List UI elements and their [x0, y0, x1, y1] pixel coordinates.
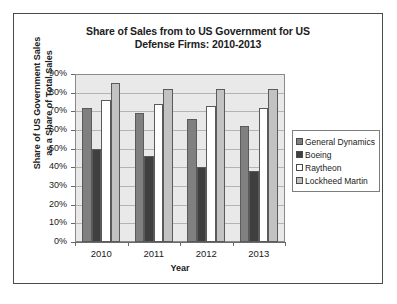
x-tick-mark	[180, 242, 181, 246]
legend-swatch-icon	[296, 164, 303, 171]
bar-2010-raytheon	[101, 100, 111, 242]
bar-2011-general-dynamics	[135, 113, 145, 242]
y-tick-label: 90%	[33, 69, 67, 78]
bar-2012-raytheon	[206, 106, 216, 242]
bar-2013-boeing	[249, 171, 259, 242]
y-tick-label: 50%	[33, 144, 67, 153]
bar-2011-lockheed-martin	[163, 89, 173, 242]
y-tick-mark	[71, 93, 75, 94]
legend-label: General Dynamics	[305, 137, 375, 147]
y-tick-label: 30%	[33, 181, 67, 190]
x-tick-mark	[285, 242, 286, 246]
x-tick-label-2013: 2013	[233, 248, 286, 259]
bars-layer	[75, 74, 285, 242]
y-tick-mark	[71, 149, 75, 150]
chart-title-line-1: Share of Sales from to US Government for…	[14, 25, 382, 38]
x-tick-mark	[128, 242, 129, 246]
legend-item-lockheed-martin[interactable]: Lockheed Martin	[296, 174, 375, 187]
chart-title: Share of Sales from to US Government for…	[14, 25, 382, 51]
y-tick-label: 20%	[33, 200, 67, 209]
y-tick-label: 60%	[33, 125, 67, 134]
bar-2010-general-dynamics	[82, 108, 92, 242]
legend-item-general-dynamics[interactable]: General Dynamics	[296, 135, 375, 148]
bar-2010-boeing	[92, 149, 102, 242]
bar-2011-boeing	[144, 156, 154, 242]
legend-swatch-icon	[296, 151, 303, 158]
y-tick-mark	[71, 74, 75, 75]
bar-group-2013	[233, 74, 286, 242]
x-tick-mark	[233, 242, 234, 246]
bar-2012-boeing	[197, 167, 207, 242]
x-tick-mark	[75, 242, 76, 246]
y-tick-mark	[71, 205, 75, 206]
bar-2013-raytheon	[259, 108, 269, 242]
bar-2013-general-dynamics	[240, 126, 250, 242]
bar-2010-lockheed-martin	[111, 83, 121, 242]
legend-label: Lockheed Martin	[305, 176, 368, 186]
legend-swatch-icon	[296, 177, 303, 184]
x-tick-label-2011: 2011	[128, 248, 181, 259]
chart-legend: General DynamicsBoeingRaytheonLockheed M…	[292, 130, 380, 192]
y-tick-label: 10%	[33, 218, 67, 227]
legend-swatch-icon	[296, 138, 303, 145]
y-tick-mark	[71, 130, 75, 131]
chart-frame: Share of Sales from to US Government for…	[13, 13, 383, 284]
y-tick-mark	[71, 111, 75, 112]
bar-2012-lockheed-martin	[216, 89, 226, 242]
y-tick-mark	[71, 167, 75, 168]
x-tick-label-2010: 2010	[75, 248, 128, 259]
legend-label: Boeing	[305, 150, 331, 160]
chart-title-line-2: Defense Firms: 2010-2013	[14, 38, 382, 51]
y-tick-label: 0%	[33, 237, 67, 246]
y-tick-mark	[71, 186, 75, 187]
x-axis-title: Year	[75, 263, 285, 273]
bar-2012-general-dynamics	[187, 119, 197, 242]
y-tick-label: 40%	[33, 162, 67, 171]
x-tick-label-2012: 2012	[180, 248, 233, 259]
bar-2013-lockheed-martin	[268, 89, 278, 242]
y-tick-label: 80%	[33, 88, 67, 97]
bar-group-2012	[180, 74, 233, 242]
bar-group-2010	[75, 74, 128, 242]
legend-label: Raytheon	[305, 163, 341, 173]
bar-group-2011	[128, 74, 181, 242]
y-tick-label: 70%	[33, 106, 67, 115]
y-tick-mark	[71, 223, 75, 224]
bar-2011-raytheon	[154, 104, 164, 242]
legend-item-boeing[interactable]: Boeing	[296, 148, 375, 161]
legend-item-raytheon[interactable]: Raytheon	[296, 161, 375, 174]
